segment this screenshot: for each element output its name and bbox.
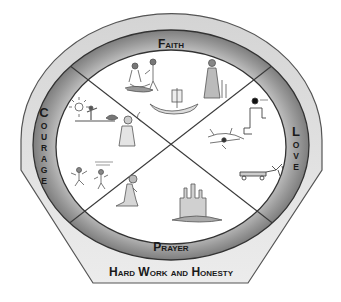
virtues-diagram: Faith C O U R A G E L O V E Prayer Hard …	[0, 0, 341, 302]
love-letter-e: E	[293, 162, 299, 172]
courage-letter-g: G	[41, 165, 48, 175]
courage-letter-r: R	[41, 143, 47, 153]
prayer-label: Prayer	[153, 240, 188, 254]
love-letter-v: V	[293, 151, 299, 161]
love-letter-o: O	[293, 140, 300, 150]
love-label-group: L O V E	[292, 124, 300, 172]
hard-work-honesty-label: Hard Work and Honesty	[109, 265, 234, 279]
courage-letter-o: O	[41, 121, 48, 131]
prayer-label-group: Prayer	[153, 240, 188, 254]
faith-label: Faith	[158, 37, 184, 51]
courage-letter-e: E	[41, 176, 47, 186]
love-letter-l: L	[292, 124, 300, 139]
courage-letter-c: C	[39, 105, 49, 120]
hard-work-label-group: Hard Work and Honesty	[109, 265, 234, 279]
faith-label-group: Faith	[158, 37, 184, 51]
courage-letter-u: U	[41, 132, 47, 142]
center-area	[56, 50, 286, 244]
courage-letter-a: A	[41, 154, 47, 164]
